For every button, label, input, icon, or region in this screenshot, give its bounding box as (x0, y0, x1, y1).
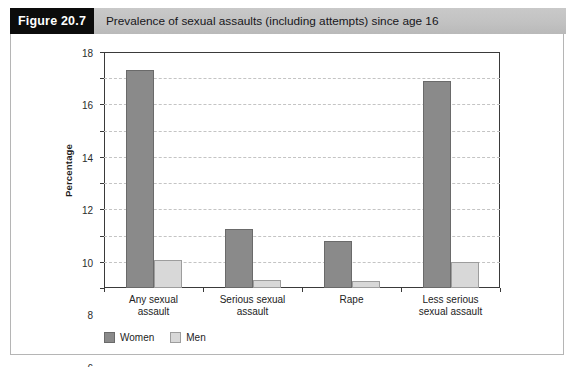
legend-item-men[interactable]: Men (170, 332, 205, 343)
figure-container: Figure 20.7 Prevalence of sexual assault… (0, 0, 578, 367)
legend-label: Women (120, 332, 154, 343)
y-tick-label: 12 (82, 205, 93, 216)
plot-wrapper: 024681012141618 (104, 52, 500, 288)
category-label-line: Rape (302, 294, 401, 306)
x-tick-mark (203, 288, 204, 292)
x-tick-mark (104, 288, 105, 292)
x-axis-category-label: Less serioussexual assault (401, 294, 500, 318)
x-axis-category-label: Rape (302, 294, 401, 306)
legend-item-women[interactable]: Women (104, 332, 154, 343)
x-tick-mark (401, 288, 402, 292)
y-tick-mark: 14 (100, 104, 104, 105)
y-tick-mark: 12 (100, 131, 104, 132)
gridline (104, 78, 500, 79)
legend-swatch-icon (104, 332, 115, 343)
y-axis-title-text: Percentage (64, 143, 75, 196)
bar-women-0 (126, 70, 154, 288)
y-tick-label: 16 (82, 100, 93, 111)
bar-men-1 (253, 280, 281, 288)
y-tick-label: 14 (82, 152, 93, 163)
y-tick-mark: 2 (100, 262, 104, 263)
bar-men-0 (154, 260, 182, 288)
category-label-line: sexual assault (401, 306, 500, 318)
bar-men-2 (352, 281, 380, 288)
bar-men-3 (451, 262, 479, 288)
category-label-line: Any sexual (104, 294, 203, 306)
x-axis-category-label: Serious sexualassault (203, 294, 302, 318)
y-tick-label: 8 (87, 310, 93, 321)
figure-title: Prevalence of sexual assaults (including… (106, 8, 438, 34)
category-label-line: assault (104, 306, 203, 318)
category-label-line: Serious sexual (203, 294, 302, 306)
x-axis-category-label: Any sexualassault (104, 294, 203, 318)
figure-header-band: Figure 20.7 Prevalence of sexual assault… (10, 8, 566, 34)
y-tick-mark: 8 (100, 183, 104, 184)
y-axis-title: Percentage (62, 52, 76, 288)
bar-women-1 (225, 229, 253, 288)
y-tick-mark: 6 (100, 209, 104, 210)
y-tick-label: 10 (82, 257, 93, 268)
y-tick-mark: 4 (100, 236, 104, 237)
legend-swatch-icon (170, 332, 181, 343)
x-tick-mark (302, 288, 303, 292)
legend-label: Men (186, 332, 205, 343)
y-tick-label: 18 (82, 48, 93, 59)
y-tick-mark: 16 (100, 78, 104, 79)
y-tick-label: 6 (87, 362, 93, 367)
figure-number-tag: Figure 20.7 (10, 8, 94, 34)
bar-women-3 (423, 81, 451, 288)
x-tick-mark (500, 288, 501, 292)
y-tick-mark: 10 (100, 157, 104, 158)
bar-women-2 (324, 241, 352, 288)
category-label-line: assault (203, 306, 302, 318)
y-tick-mark: 18 (100, 52, 104, 53)
chart-legend: WomenMen (104, 332, 206, 343)
category-label-line: Less serious (401, 294, 500, 306)
